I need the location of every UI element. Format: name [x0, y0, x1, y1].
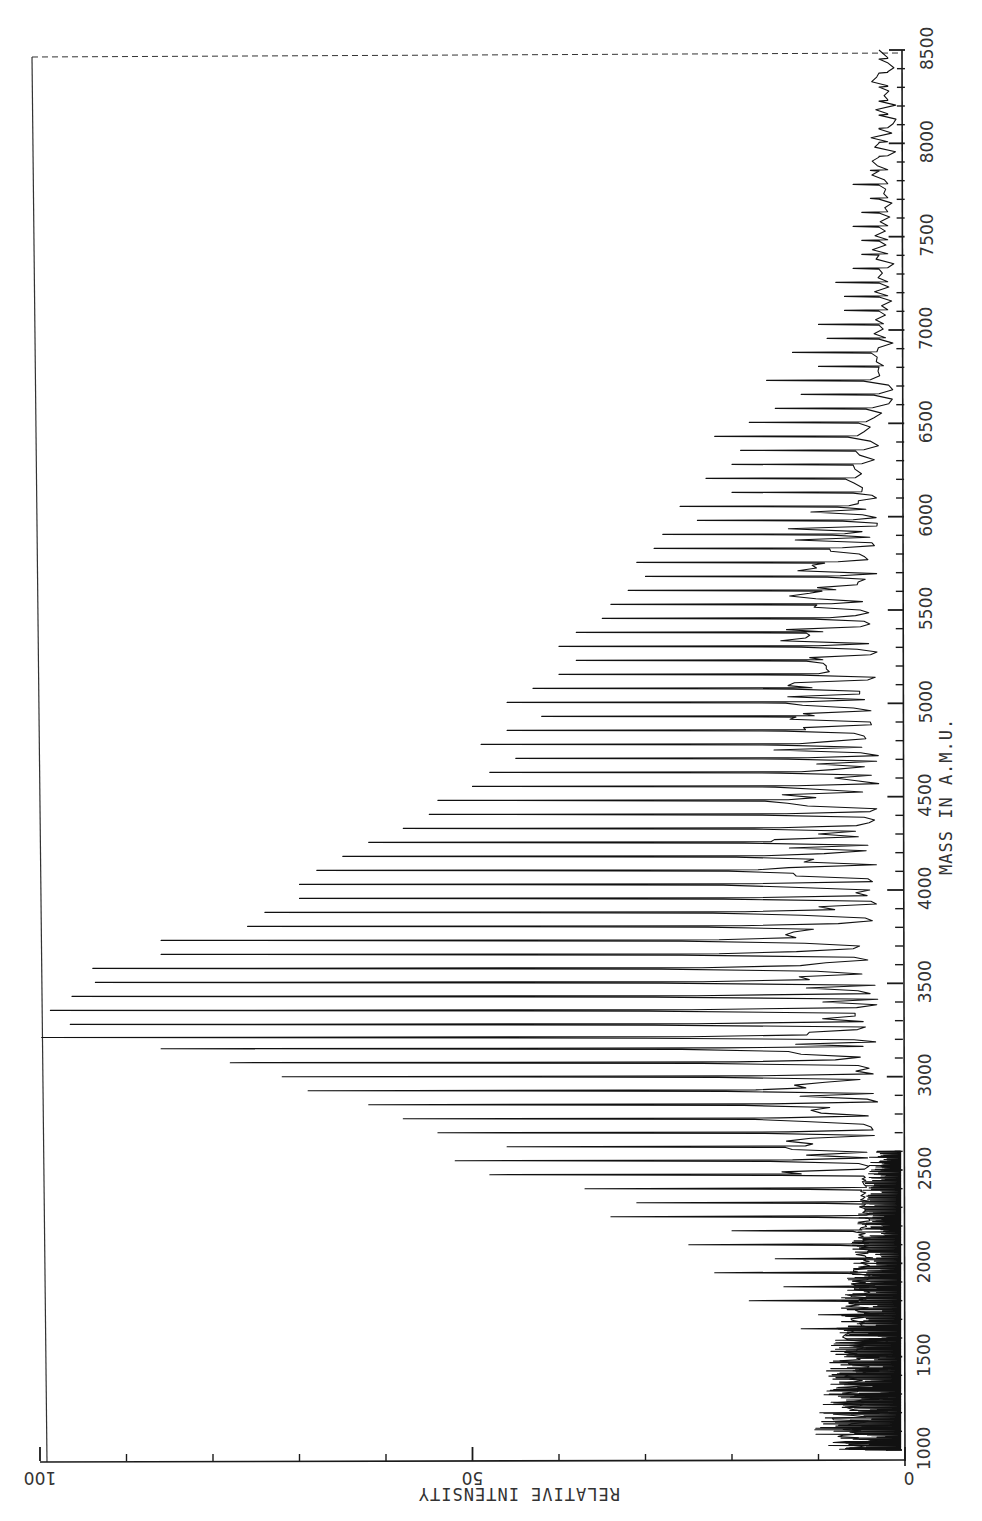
mass-tick-label: 2500 [915, 1147, 935, 1190]
mass-tick-label: 7500 [917, 213, 937, 256]
mass-axis-title: MASS IN A.M.U. [936, 718, 956, 875]
intensity-tick-label: 100 [24, 1468, 56, 1488]
intensity-axis-title: RELATIVE INTENSITY [418, 1484, 620, 1504]
spectrum-trace [42, 50, 901, 1450]
mass-axis-tick-labels: 1000150020002500300035004000450050005500… [914, 27, 937, 1470]
mass-tick-label: 6500 [916, 400, 936, 443]
mass-tick-label: 4000 [915, 867, 935, 910]
intensity-tick-label: 0 [904, 1468, 915, 1488]
mass-tick-label: 2000 [914, 1240, 934, 1283]
mass-tick-label: 6000 [916, 493, 936, 536]
mass-tick-label: 8500 [917, 27, 937, 70]
spectrum-polyline [42, 50, 896, 1450]
mass-tick-label: 1500 [914, 1333, 934, 1376]
plot-frame-top [32, 53, 902, 57]
mass-tick-label: 3000 [915, 1053, 935, 1096]
mass-spectrum-chart: 1000150020002500300035004000450050005500… [0, 0, 982, 1521]
mass-tick-label: 5000 [916, 680, 936, 723]
mass-tick-label: 7000 [916, 307, 936, 350]
plot-frame-left [32, 57, 47, 1462]
mass-axis-line [902, 50, 905, 1466]
mass-tick-label: 4500 [915, 773, 935, 816]
mass-tick-label: 3500 [915, 960, 935, 1003]
mass-tick-label: 1000 [914, 1427, 934, 1470]
intensity-axis-ticks [40, 1447, 905, 1461]
mass-tick-label: 8000 [917, 120, 937, 163]
mass-tick-label: 5500 [916, 587, 936, 630]
